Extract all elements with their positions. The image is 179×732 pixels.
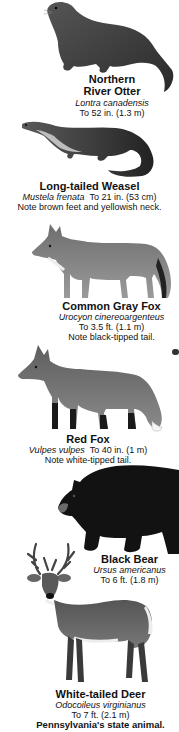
gray-fox-size: To 3.5 ft. (1.1 m) xyxy=(44,322,179,332)
red-fox-scientific-and-size: Vulpes vulpes To 40 in. (1 m) xyxy=(18,445,158,455)
white-tailed-deer-note: Pennsylvania's state animal. xyxy=(22,720,179,731)
otter-size: To 52 in. (1.3 m) xyxy=(62,108,162,118)
gray-fox-illustration xyxy=(30,218,176,300)
gray-fox-scientific-name: Urocyon cinereoargenteus xyxy=(44,312,179,322)
weasel-name: Long-tailed Weasel xyxy=(0,180,179,192)
weasel-note: Note brown feet and yellowish neck. xyxy=(0,202,179,212)
weasel-scientific-name: Mustela frenata xyxy=(22,192,84,202)
red-fox-size: To 40 in. (1 m) xyxy=(90,445,148,455)
red-fox-caption: Red Fox Vulpes vulpes To 40 in. (1 m) No… xyxy=(18,433,158,465)
red-fox-illustration xyxy=(16,343,166,435)
red-fox-scientific-name: Vulpes vulpes xyxy=(29,445,85,455)
white-tailed-deer-illustration xyxy=(14,540,164,686)
otter-scientific-name: Lontra canadensis xyxy=(62,98,162,108)
weasel-size: To 21 in. (53 cm) xyxy=(90,192,157,202)
otter-name-line1: Northern xyxy=(62,73,162,85)
gray-fox-note: Note black-tipped tail. xyxy=(44,332,179,342)
white-tailed-deer-caption: White-tailed Deer Odocoileus virginianus… xyxy=(22,688,179,731)
gray-fox-caption: Common Gray Fox Urocyon cinereoargenteus… xyxy=(44,300,179,343)
white-tailed-deer-scientific-name: Odocoileus virginianus xyxy=(22,700,179,710)
adjacent-illustration-fragment xyxy=(172,349,179,355)
white-tailed-deer-name: White-tailed Deer xyxy=(22,688,179,700)
weasel-illustration xyxy=(16,120,166,182)
weasel-caption: Long-tailed Weasel Mustela frenata To 21… xyxy=(0,180,179,212)
otter-name-line2: River Otter xyxy=(62,85,162,97)
weasel-scientific-and-size: Mustela frenata To 21 in. (53 cm) xyxy=(0,192,179,202)
otter-caption: Northern River Otter Lontra canadensis T… xyxy=(62,73,162,118)
red-fox-name: Red Fox xyxy=(18,433,158,445)
gray-fox-name: Common Gray Fox xyxy=(44,300,179,312)
